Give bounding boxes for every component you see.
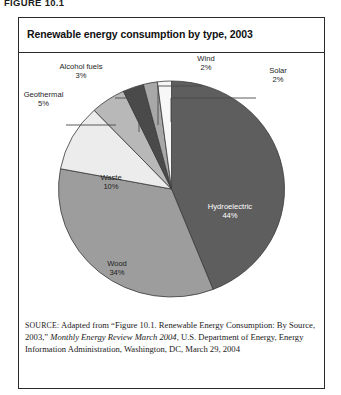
slice-label-wood: Wood 34% (97, 259, 137, 278)
slice-label-hydroelectric-pct: 44% (195, 211, 265, 220)
slice-label-hydroelectric-name: Hydroelectric (208, 202, 252, 211)
slice-label-wood-pct: 34% (97, 268, 137, 277)
figure-number-caption: FIGURE 10.1 (4, 0, 64, 8)
slice-label-wind-pct: 2% (186, 63, 226, 72)
slice-label-wood-name: Wood (107, 259, 127, 268)
slice-label-wind-name: Wind (197, 54, 214, 63)
slice-label-geothermal-pct: 5% (19, 99, 68, 108)
slice-label-geothermal: Geothermal 5% (19, 90, 68, 109)
chart-title: Renewable energy consumption by type, 20… (27, 28, 253, 40)
slice-label-wind: Wind 2% (186, 54, 226, 73)
source-note: SOURCE: Adapted from “Figure 10.1. Renew… (25, 320, 319, 356)
pie-chart: Wind 2% Solar 2% Alcohol fuels 3% Geothe… (19, 52, 324, 317)
slice-label-solar-name: Solar (269, 66, 287, 75)
slice-label-solar: Solar 2% (258, 66, 298, 85)
slice-label-hydroelectric: Hydroelectric 44% (195, 202, 265, 221)
slice-label-alcohol-fuels-name: Alcohol fuels (59, 62, 102, 71)
slice-label-waste-pct: 10% (91, 182, 131, 191)
source-note-publication: Monthly Energy Review March 2004 (50, 332, 176, 342)
source-note-prefix: SOURCE: (25, 321, 59, 330)
slice-label-waste-name: Waste (100, 173, 121, 182)
slice-label-alcohol-fuels: Alcohol fuels 3% (47, 62, 115, 81)
slice-label-solar-pct: 2% (258, 75, 298, 84)
slice-label-geothermal-name: Geothermal (24, 90, 64, 99)
figure-box: Renewable energy consumption by type, 20… (18, 17, 325, 389)
slice-label-waste: Waste 10% (91, 173, 131, 192)
slice-label-alcohol-fuels-pct: 3% (47, 71, 115, 80)
